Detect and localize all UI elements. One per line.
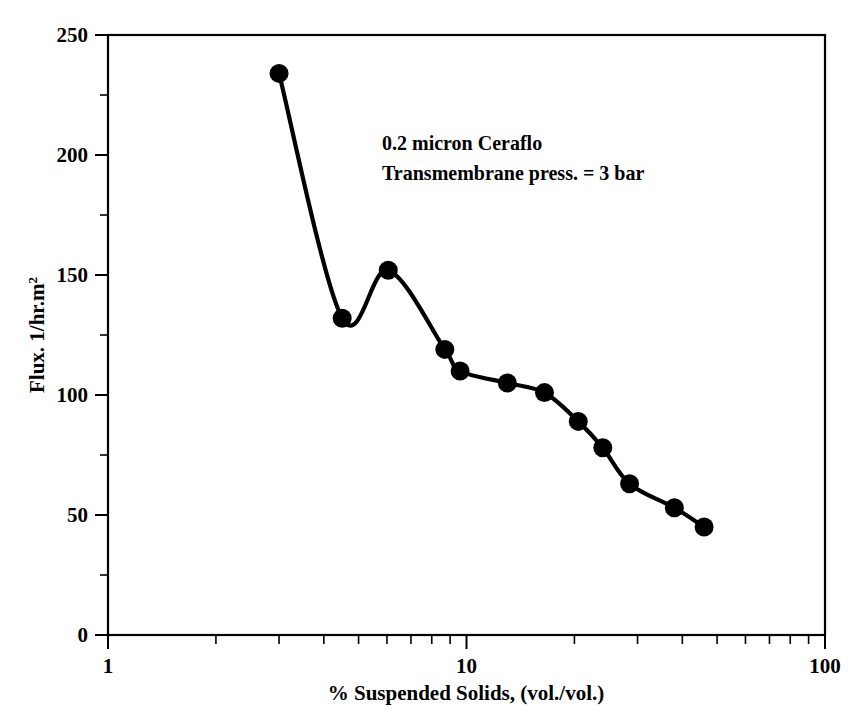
y-axis-ticks: [95, 35, 108, 635]
data-point: [498, 374, 517, 393]
data-point: [379, 261, 398, 280]
x-axis-title: % Suspended Solids, (vol./vol.): [328, 681, 605, 705]
y-tick-label: 100: [57, 383, 89, 407]
y-tick-label: 50: [67, 503, 88, 527]
data-point: [535, 383, 554, 402]
data-point: [435, 340, 454, 359]
x-tick-label: 10: [456, 654, 477, 678]
data-point: [695, 518, 714, 537]
y-tick-label: 250: [57, 23, 89, 47]
y-axis-tick-labels: 050100150200250: [57, 23, 89, 647]
data-point: [569, 412, 588, 431]
y-axis-title-text: Flux. 1/hr.m: [25, 283, 49, 393]
x-axis-tick-labels: 110100: [103, 654, 841, 678]
y-tick-label: 200: [57, 143, 89, 167]
data-point: [270, 64, 289, 83]
y-axis-title-superscript: 2: [25, 277, 40, 284]
plot-frame: [108, 35, 825, 635]
x-tick-label: 100: [809, 654, 841, 678]
y-axis-title-group: Flux. 1/hr.m2: [25, 277, 49, 393]
data-point: [593, 438, 612, 457]
figure-container: 050100150200250 110100 % Suspended Solid…: [0, 0, 859, 728]
annotation-line-1: 0.2 micron Ceraflo: [382, 132, 542, 154]
data-point: [665, 498, 684, 517]
data-point: [620, 474, 639, 493]
data-point: [333, 309, 352, 328]
x-tick-label: 1: [103, 654, 114, 678]
y-axis-title: Flux. 1/hr.m2: [25, 277, 49, 393]
data-point: [451, 362, 470, 381]
annotation-line-2: Transmembrane press. = 3 bar: [382, 162, 644, 185]
y-tick-label: 0: [78, 623, 89, 647]
y-tick-label: 150: [57, 263, 89, 287]
x-axis-ticks: [108, 35, 825, 649]
flux-vs-suspended-solids-chart: 050100150200250 110100 % Suspended Solid…: [0, 0, 859, 728]
